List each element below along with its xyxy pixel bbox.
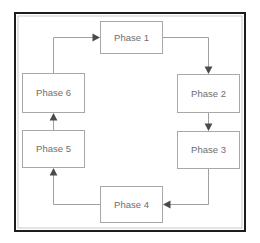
connector-phase1-phase2: [163, 38, 209, 69]
connector-phase6-phase1: [54, 38, 96, 74]
arrow-head-phase2-in: [205, 67, 213, 75]
phase-2-label: Phase 2: [191, 88, 226, 99]
cycle-diagram: Phase 1 Phase 2 Phase 3 Phase 4 Phase 5 …: [0, 0, 260, 243]
phase-5-label: Phase 5: [36, 143, 71, 154]
connector-phase3-phase4: [169, 169, 209, 205]
arrow-head-phase3-in: [205, 124, 213, 132]
arrow-head-phase5-in: [50, 168, 58, 176]
diagram-canvas: Phase 1 Phase 2 Phase 3 Phase 4 Phase 5 …: [0, 0, 260, 243]
connector-phase4-phase5: [54, 174, 101, 205]
arrow-head-phase1-in: [93, 34, 101, 42]
node-phase-5[interactable]: Phase 5: [23, 131, 85, 168]
node-phase-3[interactable]: Phase 3: [178, 132, 240, 169]
node-phase-1[interactable]: Phase 1: [101, 22, 163, 54]
phase-1-label: Phase 1: [114, 32, 149, 43]
phase-4-label: Phase 4: [114, 199, 149, 210]
phase-6-label: Phase 6: [36, 87, 71, 98]
node-phase-2[interactable]: Phase 2: [178, 75, 240, 113]
phase-3-label: Phase 3: [191, 144, 226, 155]
arrow-head-phase6-in: [50, 113, 58, 121]
node-phase-6[interactable]: Phase 6: [23, 74, 85, 113]
arrow-head-phase4-in: [163, 201, 171, 209]
node-phase-4[interactable]: Phase 4: [101, 187, 163, 223]
